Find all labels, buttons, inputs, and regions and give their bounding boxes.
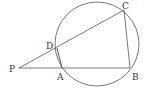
label-p: P bbox=[9, 64, 15, 74]
label-c: C bbox=[122, 1, 129, 11]
geometry-diagram: P A B C D bbox=[0, 0, 150, 88]
label-d: D bbox=[46, 41, 53, 51]
label-a: A bbox=[56, 72, 64, 82]
segment-cb bbox=[124, 10, 130, 68]
segment-pc bbox=[19, 10, 124, 68]
circle bbox=[55, 2, 139, 86]
label-b: B bbox=[132, 72, 139, 82]
